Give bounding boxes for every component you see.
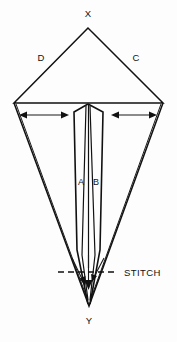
label-panel-b: B — [93, 177, 99, 187]
label-apex-bottom: Y — [86, 315, 93, 326]
spread-arrow-left — [19, 112, 69, 119]
panel-a-inner-fold — [82, 106, 88, 300]
kite-sail-diagram: X D C A B STITCH Y — [0, 0, 177, 342]
label-apex-top: X — [85, 8, 92, 19]
panel-b-inner-fold — [90, 106, 95, 300]
label-panel-a: A — [78, 177, 84, 187]
panel-a-outline — [74, 104, 88, 304]
spread-arrow-right — [111, 112, 157, 119]
label-stitch: STITCH — [124, 267, 161, 278]
inner-left-seam — [16, 104, 88, 301]
label-side-d: D — [37, 52, 44, 63]
upper-triangle-outline — [14, 28, 163, 103]
diagram-canvas: X D C A B STITCH Y — [0, 0, 177, 342]
label-side-c: C — [132, 52, 139, 63]
